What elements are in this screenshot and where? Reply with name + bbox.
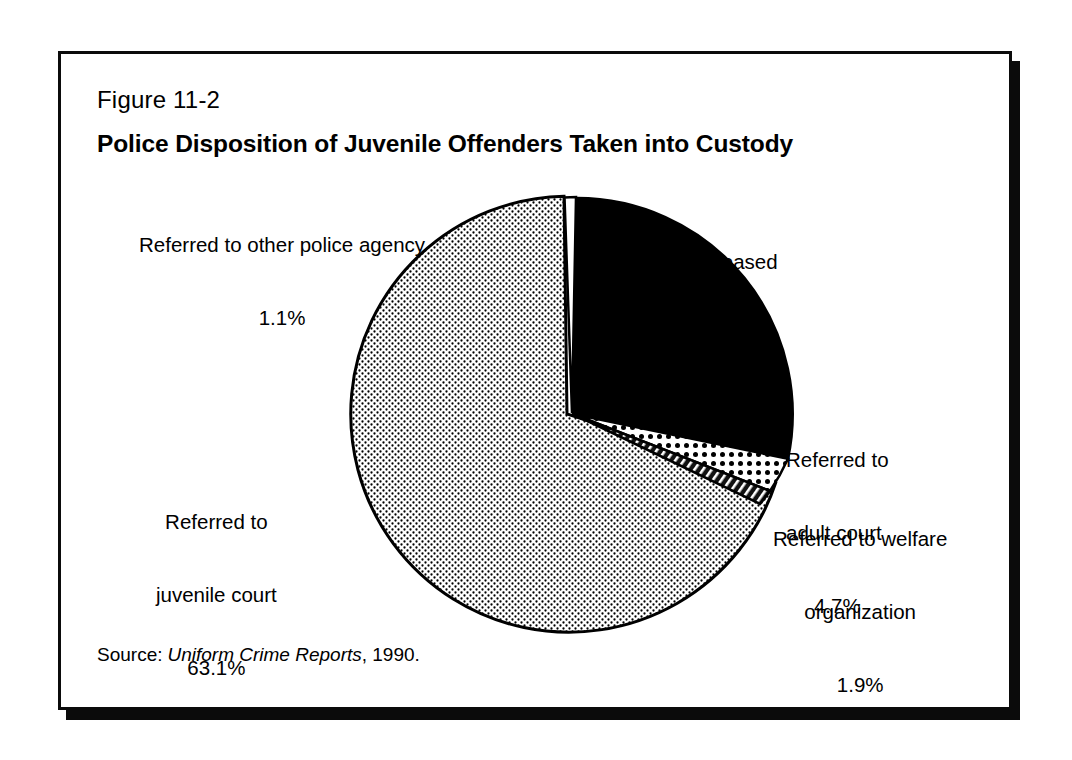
figure-number: Figure 11-2 <box>97 86 220 114</box>
figure-panel: Figure 11-2 Police Disposition of Juveni… <box>58 51 1012 710</box>
pie-slice-welfare-organization <box>573 414 770 504</box>
callout-juvenile-court: Referred to juvenile court 63.1% <box>156 462 277 728</box>
source-publication: Uniform Crime Reports <box>162 644 361 665</box>
source-label: Source: <box>97 644 162 665</box>
callout-welfare-organization-text-1: Referred to welfare <box>773 527 947 551</box>
callout-adult-court-text-1: Referred to <box>786 448 889 472</box>
pie-slice-adult-court <box>573 414 788 491</box>
callout-welfare-organization-text-2: organization <box>773 600 947 624</box>
callout-released: Released 29.1% <box>691 202 778 396</box>
callout-other-police-agency-value: 1.1% <box>139 306 425 330</box>
callout-welfare-organization: Referred to welfare organization 1.9% <box>773 479 947 745</box>
callout-juvenile-court-text-2: juvenile court <box>156 583 277 607</box>
page-title: Police Disposition of Juvenile Offenders… <box>97 130 793 158</box>
pie-slice-other-police-agency <box>565 197 577 413</box>
callout-other-police-agency: Referred to other police agency 1.1% <box>139 185 425 379</box>
callout-released-text: Released <box>691 250 778 274</box>
source-year: , 1990. <box>362 644 420 665</box>
callout-juvenile-court-text-1: Referred to <box>156 510 277 534</box>
callout-other-police-agency-text: Referred to other police agency <box>139 233 425 257</box>
source-note: Source:Uniform Crime Reports, 1990. <box>97 644 420 666</box>
callout-welfare-organization-value: 1.9% <box>773 673 947 697</box>
callout-released-value: 29.1% <box>691 323 778 347</box>
